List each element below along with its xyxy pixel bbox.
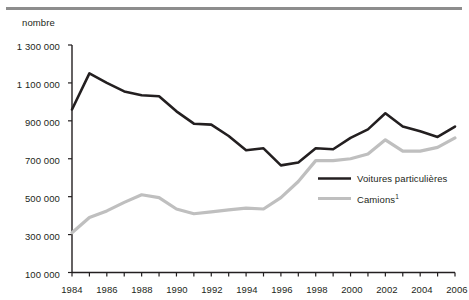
plot-area bbox=[0, 0, 469, 300]
legend-footnote-marker: 1 bbox=[395, 193, 399, 200]
legend-label-voitures-particulieres: Voitures particulières bbox=[357, 173, 447, 184]
series-line-voitures-particulieres bbox=[72, 73, 455, 165]
legend-label-camions-text: Camions bbox=[357, 194, 395, 205]
chart-figure: nombre 1 300 000 1 100 000 900 000 700 0… bbox=[0, 0, 469, 300]
legend-label-camions: Camions1 bbox=[357, 193, 399, 205]
axis-lines bbox=[72, 45, 455, 273]
series-line-camions bbox=[72, 138, 455, 233]
